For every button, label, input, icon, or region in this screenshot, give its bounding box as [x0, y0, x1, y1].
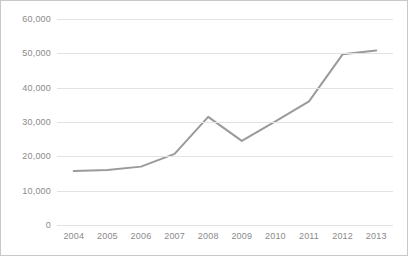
gridline	[57, 88, 393, 89]
series-line	[74, 51, 376, 172]
x-axis: 2004200520062007200820092010201120122013	[57, 231, 393, 249]
y-tick-label: 40,000	[5, 83, 51, 93]
gridline	[57, 53, 393, 54]
gridline	[57, 156, 393, 157]
gridline	[57, 122, 393, 123]
y-tick-label: 50,000	[5, 48, 51, 58]
x-tick-label: 2005	[97, 231, 118, 241]
gridline	[57, 19, 393, 20]
x-tick-label: 2006	[131, 231, 152, 241]
y-tick-label: 20,000	[5, 151, 51, 161]
y-tick-label: 30,000	[5, 117, 51, 127]
y-tick-label: 60,000	[5, 14, 51, 24]
x-tick-label: 2012	[332, 231, 353, 241]
x-tick-label: 2009	[231, 231, 252, 241]
x-tick-label: 2010	[265, 231, 286, 241]
y-tick-label: 0	[5, 220, 51, 230]
x-tick-label: 2011	[299, 231, 319, 241]
y-tick-label: 10,000	[5, 186, 51, 196]
x-tick-label: 2004	[63, 231, 84, 241]
x-tick-label: 2007	[164, 231, 185, 241]
plot-area	[57, 19, 393, 225]
x-tick-label: 2013	[366, 231, 387, 241]
gridline	[57, 225, 393, 226]
gridline	[57, 191, 393, 192]
chart-container: 010,00020,00030,00040,00050,00060,000 20…	[0, 0, 408, 256]
x-tick-label: 2008	[198, 231, 219, 241]
y-axis: 010,00020,00030,00040,00050,00060,000	[1, 19, 51, 225]
